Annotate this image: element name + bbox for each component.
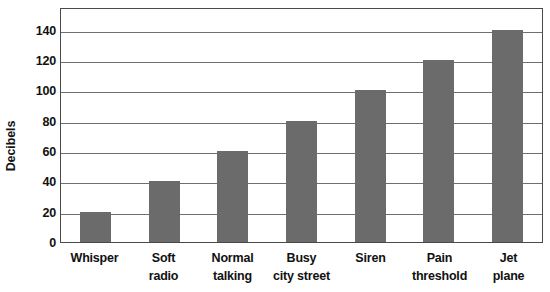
bar: [149, 181, 180, 242]
y-axis-tick-label: 60: [42, 146, 56, 159]
x-axis-category-label-line: Pain: [427, 251, 453, 265]
x-axis-category-label: Whisper: [60, 248, 129, 290]
x-axis-category-label: Normaltalking: [198, 248, 267, 290]
y-axis-tick-label: 140: [36, 24, 56, 37]
bar-slot: [198, 9, 267, 242]
bar: [286, 121, 317, 242]
bar-slot: [473, 9, 542, 242]
y-axis-tick-label: 80: [42, 115, 56, 128]
bar-slot: [61, 9, 130, 242]
bars: [61, 9, 542, 242]
x-axis-category-label-line: Whisper: [71, 251, 119, 265]
bar: [217, 151, 248, 242]
x-axis-category-label-line: radio: [129, 268, 198, 286]
bar: [423, 60, 454, 242]
x-axis-category-label: Softradio: [129, 248, 198, 290]
x-axis-category-label: Jetplane: [474, 248, 543, 290]
y-axis-tick-labels: 020406080100120140: [20, 8, 56, 243]
x-axis-category-label-line: Siren: [355, 251, 385, 265]
bar-slot: [405, 9, 474, 242]
x-axis-category-label: Painthreshold: [405, 248, 474, 290]
bar-slot: [267, 9, 336, 242]
x-axis-category-label-line: Soft: [152, 251, 176, 265]
x-axis-category-label: Busycity street: [267, 248, 336, 290]
y-axis-tick-label: 100: [36, 85, 56, 98]
x-axis-category-label-line: plane: [474, 268, 543, 286]
bar: [492, 30, 523, 242]
y-axis-tick-label: 40: [42, 176, 56, 189]
x-axis-category-label-line: Busy: [287, 251, 317, 265]
x-axis-category-label-line: talking: [198, 268, 267, 286]
bar: [355, 90, 386, 242]
bar-slot: [336, 9, 405, 242]
x-axis-category-label: Siren: [336, 248, 405, 290]
y-axis-tick-label: 0: [49, 237, 56, 250]
y-axis-tick-label: 120: [36, 55, 56, 68]
x-axis-category-label-line: Normal: [212, 251, 254, 265]
x-axis-category-label-line: threshold: [405, 268, 474, 286]
plot-area: [60, 8, 543, 243]
x-axis-category-label-line: Jet: [500, 251, 517, 265]
y-axis-title: Decibels: [0, 0, 22, 292]
x-axis-category-labels: WhisperSoftradioNormaltalkingBusycity st…: [60, 248, 543, 290]
x-axis-category-label-line: city street: [267, 268, 336, 286]
bar-chart: Decibels 020406080100120140 WhisperSoftr…: [0, 0, 550, 292]
bar: [80, 212, 111, 242]
bar-slot: [130, 9, 199, 242]
y-axis-tick-label: 20: [42, 206, 56, 219]
